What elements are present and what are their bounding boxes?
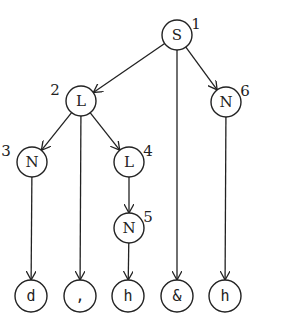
node-index-label: 6 bbox=[240, 82, 250, 100]
leaf-node-t1: d bbox=[15, 280, 47, 312]
tree-nodes: S1L2N6N3L4N5d,h&h bbox=[1, 15, 250, 312]
node-index-label: 1 bbox=[191, 15, 201, 33]
node-label: S bbox=[172, 26, 182, 44]
node-index-label: 3 bbox=[1, 142, 11, 160]
edge-n1-to-n2 bbox=[93, 43, 164, 92]
tree-node-n3: N3 bbox=[1, 142, 47, 177]
node-label: N bbox=[25, 153, 38, 171]
node-label: N bbox=[219, 93, 232, 111]
node-label: h bbox=[123, 287, 132, 305]
node-label: L bbox=[76, 92, 86, 110]
tree-node-n5: N5 bbox=[114, 208, 153, 243]
node-label: , bbox=[75, 287, 84, 305]
leaf-node-t3: h bbox=[112, 280, 144, 312]
edge-n1-to-n6 bbox=[186, 47, 217, 90]
edge-n6-to-t5 bbox=[225, 117, 226, 280]
node-label: L bbox=[124, 153, 134, 171]
parse-tree-diagram: S1L2N6N3L4N5d,h&h bbox=[0, 0, 293, 330]
node-index-label: 4 bbox=[143, 142, 153, 160]
tree-node-n6: N6 bbox=[211, 82, 250, 117]
edge-n2-to-n3 bbox=[41, 113, 71, 151]
node-label: h bbox=[220, 287, 229, 305]
tree-node-n1: S1 bbox=[162, 15, 201, 50]
edge-n2-to-t2 bbox=[80, 116, 81, 280]
node-index-label: 2 bbox=[50, 81, 60, 99]
leaf-node-t4: & bbox=[161, 280, 193, 312]
node-index-label: 5 bbox=[143, 208, 153, 226]
leaf-node-t2: , bbox=[64, 280, 96, 312]
tree-node-n4: L4 bbox=[114, 142, 153, 177]
edge-n5-to-t3 bbox=[128, 243, 129, 280]
edge-n2-to-n4 bbox=[90, 113, 119, 150]
edge-n3-to-t1 bbox=[31, 177, 32, 280]
node-label: & bbox=[172, 287, 181, 305]
tree-node-n2: L2 bbox=[50, 81, 96, 116]
leaf-node-t5: h bbox=[209, 280, 241, 312]
node-label: N bbox=[122, 219, 135, 237]
node-label: d bbox=[26, 287, 35, 305]
